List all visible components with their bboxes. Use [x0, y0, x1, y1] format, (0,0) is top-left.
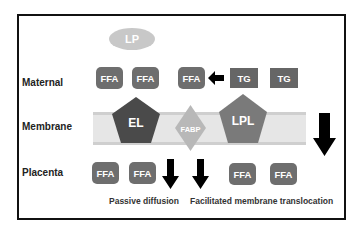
placenta-ffa-1: FFA — [92, 162, 119, 184]
fabp-label: FABP — [180, 125, 200, 134]
el-pentagon: EL — [111, 96, 161, 144]
maternal-ffa-2: FFA — [132, 67, 159, 89]
fabp-diamond: FABP — [174, 104, 207, 152]
lipoprotein-ellipse: LP — [109, 28, 155, 50]
maternal-ffa-1: FFA — [96, 67, 123, 89]
lpl-pentagon: LPL — [218, 93, 268, 144]
caption-facilitated-translocation: Facilitated membrane translocation — [190, 196, 333, 206]
caption-passive-diffusion: Passive diffusion — [109, 196, 179, 206]
maternal-tg-2: TG — [270, 68, 298, 88]
placenta-ffa-3: FFA — [229, 163, 256, 185]
placenta-ffa-2: FFA — [129, 162, 156, 184]
maternal-ffa-3: FFA — [178, 67, 205, 89]
arrow-down-passive-icon — [162, 159, 179, 189]
label-membrane: Membrane — [22, 121, 72, 132]
maternal-tg-1: TG — [230, 68, 258, 88]
arrow-down-facilitated-icon — [192, 159, 209, 189]
placenta-ffa-4: FFA — [270, 163, 297, 185]
lpl-label: LPL — [232, 114, 255, 128]
el-label: EL — [128, 116, 143, 130]
arrow-down-large-icon — [313, 113, 336, 156]
arrow-left-icon — [208, 71, 225, 85]
label-maternal: Maternal — [22, 77, 63, 88]
label-placenta: Placenta — [22, 167, 63, 178]
